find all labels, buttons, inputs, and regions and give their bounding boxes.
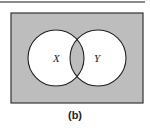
figure-caption: (b) [0, 109, 150, 121]
set-x-label: X [52, 52, 61, 64]
